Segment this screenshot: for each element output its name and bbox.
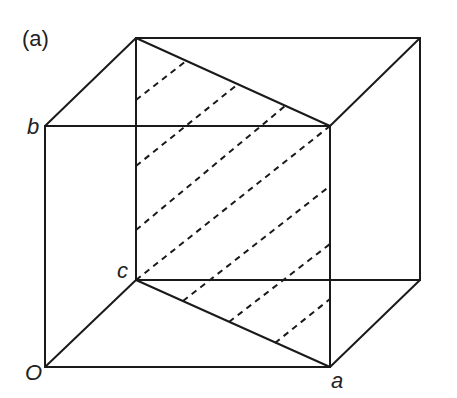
edge-a-back-bottom-right <box>330 280 420 367</box>
unit-cell-diagram: (a) b c O a <box>0 0 457 398</box>
plane-hatch-lines <box>136 61 330 343</box>
edge-top-right-connect <box>330 38 420 126</box>
plane-top-diagonal <box>136 38 330 126</box>
vertex-label-a: a <box>331 368 343 393</box>
edge-O-c <box>45 280 136 367</box>
edge-b-back-top-left <box>45 38 136 126</box>
plane-bottom-diagonal-c-a <box>136 280 330 367</box>
vertex-label-origin: O <box>25 360 42 385</box>
panel-label: (a) <box>22 26 49 51</box>
vertex-label-b: b <box>27 114 39 139</box>
vertex-label-c: c <box>117 258 128 283</box>
